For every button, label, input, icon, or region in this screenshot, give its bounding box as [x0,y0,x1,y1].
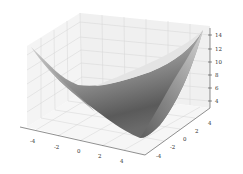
y-tick-label: 2 [195,128,199,134]
y-tick-label: 0 [183,136,187,142]
y-tick-label: -4 [156,153,162,159]
z-tick-label: 12 [215,46,222,52]
z-tick-labels: 14 12 10 8 6 4 [215,32,222,104]
x-tick-label: -4 [30,138,36,144]
x-tick-label: 0 [77,148,81,154]
z-tick-label: 8 [215,72,219,78]
surface-plot-3d: -4 -2 0 2 4 -4 -2 0 2 4 14 12 10 8 6 4 [0,0,243,174]
x-tick-label: 2 [98,153,102,159]
z-tick-label: 6 [215,85,219,91]
z-tick-label: 10 [215,59,222,65]
y-tick-label: -2 [170,144,175,150]
x-tick-label: 4 [120,158,124,164]
y-tick-label: 4 [208,120,212,126]
z-tick-label: 14 [215,32,222,38]
z-tick-label: 4 [215,98,219,104]
x-tick-label: -2 [54,144,59,150]
